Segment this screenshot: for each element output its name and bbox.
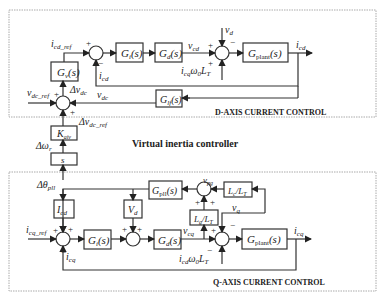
plus-sign: + [210,197,215,207]
plus-sign: + [54,89,59,99]
q-sum-1 [56,232,70,246]
icq-out-label: icq [294,225,304,238]
s-label: s [61,155,65,165]
virtual-inertia-title: Virtual inertia controller [132,138,239,149]
delta-wr-label: Δωr [35,140,52,153]
q-sum-3 [215,232,229,246]
gv-label: Gv(s) [57,66,80,80]
icd-label: icd [99,70,109,83]
minus-sign: − [207,245,212,255]
icd-ref-label: icd_ref [51,38,72,51]
vpg-label: vpg [203,175,213,186]
q-sum-2 [126,232,140,246]
plus-sign: + [211,225,216,235]
d-gd-label: Gd(s) [159,47,182,61]
control-block-diagram: Gv(s) Gi(s) Gd(s) Gplant(s) Glf(s) icd_r… [0,0,386,298]
plus-sign: + [137,224,142,234]
delta-vdc-ref-label: Δvdc_ref [78,116,108,129]
minus-sign: − [230,37,235,47]
d-axis-title: D-AXIS CURRENT CONTROL [215,108,326,117]
delta-theta-pll-label: Δθpll [36,179,55,192]
vdc-ref-label: vdc_ref [27,87,50,100]
icq-ref-label: icq_ref [26,224,47,237]
minus-sign: − [230,220,235,230]
vcq-label: vcq [183,225,195,238]
q-gi-label: Gi(s) [88,234,110,248]
plus-sign: + [122,224,127,234]
icd-w0-lt-label: icdω0LT [179,253,210,266]
icq-label: icq [66,251,76,264]
minus-sign: − [98,58,103,68]
plus-sign: + [86,38,91,48]
plus-sign: + [68,224,73,234]
vd-label: vd [225,24,233,37]
plus-sign: + [53,225,58,235]
delta-vdc-label: Δvdc [69,84,88,97]
icq-w0-lt-label: icqω0LT [181,65,212,78]
q-axis-title: Q-AXIS CURRENT CONTROL [213,278,325,287]
plus-sign: + [70,107,75,117]
plus-sign: + [208,40,213,50]
q-gd-label: Gd(s) [158,234,181,248]
icd-out-label: icd [296,39,306,52]
vdc-label: vdc [97,89,109,102]
plus-sign: + [195,197,200,207]
plus-sign: + [208,58,213,68]
d-sum-2 [215,46,229,60]
d-gi-label: Gi(s) [121,47,143,61]
vcd-label: vcd [188,40,200,53]
